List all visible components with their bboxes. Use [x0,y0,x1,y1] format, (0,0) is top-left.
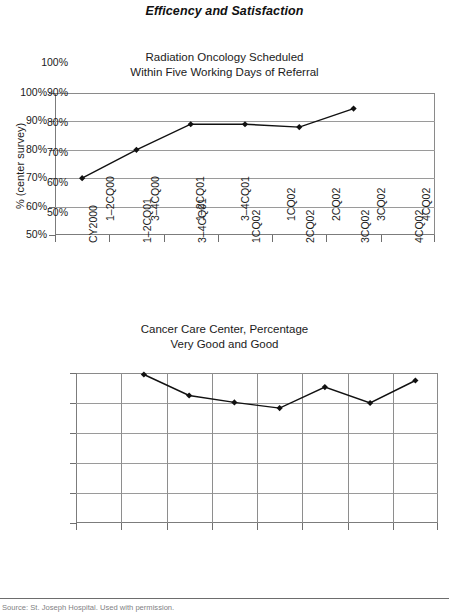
x-axis-tick-label: 3CQ02 [375,188,387,221]
source-note: Source: St. Joseph Hospital. Used with p… [2,603,174,612]
x-axis-tick [434,235,435,242]
series-marker [277,405,283,411]
chart-2-plot-area [76,373,438,523]
x-axis-tick-label: 1–2CQ00 [104,176,116,221]
footer-divider [0,598,449,599]
x-axis-tick-label: 1CQ02 [250,210,262,243]
chart-series [76,373,438,523]
x-axis-tick [212,523,213,530]
y-axis-title: % (center survey) [14,123,26,209]
x-axis-tick-label: CY2000 [87,205,99,243]
page-root: { "page": { "heading": "Efficency and Sa… [0,0,449,612]
series-marker [231,399,237,405]
x-axis-tick [76,523,77,530]
y-axis-tick-label: 70% [28,146,68,158]
series-marker [242,121,248,127]
x-axis-tick [167,523,168,530]
chart-2-title: Cancer Care Center, Percentage Very Good… [0,322,449,351]
series-line [144,375,416,409]
x-axis-tick-label: 2CQ02 [330,188,342,221]
x-axis-tick-label: 1CQ02 [285,188,297,221]
series-marker [367,400,373,406]
x-axis-tick [121,523,122,530]
x-axis-tick [348,523,349,530]
y-axis-tick-label: 50% [28,206,68,218]
series-marker [188,121,194,127]
series-marker [133,147,139,153]
x-axis-tick [164,235,165,242]
x-axis-tick [257,523,258,530]
y-axis-tick-label: 90% [28,86,68,98]
series-marker [79,175,85,181]
x-axis-tick [437,523,438,530]
y-axis-tick-label: 50% [7,228,47,240]
x-axis-tick-label: 1–2CQ01 [194,176,206,221]
x-axis-tick [326,235,327,242]
x-axis-tick-label: 2CQ02 [304,210,316,243]
series-marker [296,124,302,130]
series-line [82,109,354,179]
chart-cancer-care-center: Cancer Care Center, Percentage Very Good… [0,310,449,580]
x-axis-tick [109,235,110,242]
x-axis-tick-label: 3–4CQ00 [149,176,161,221]
y-axis-tick-label: 80% [28,116,68,128]
series-marker [412,377,418,383]
series-marker [350,106,356,112]
series-marker [322,384,328,390]
x-axis-tick [55,235,56,242]
x-axis-tick [272,235,273,242]
x-axis-tick [218,235,219,242]
series-marker [186,392,192,398]
x-axis-tick [302,523,303,530]
y-axis-tick-label: 60% [28,176,68,188]
x-axis-tick [393,523,394,530]
y-axis-tick-label: 100% [28,56,68,68]
x-axis-tick-label: 3–4CQ01 [239,176,251,221]
x-axis-tick-label: 3CQ02 [359,210,371,243]
x-axis-tick [381,235,382,242]
series-marker [141,371,147,377]
x-axis-tick-label: 4CQ02 [420,188,432,221]
